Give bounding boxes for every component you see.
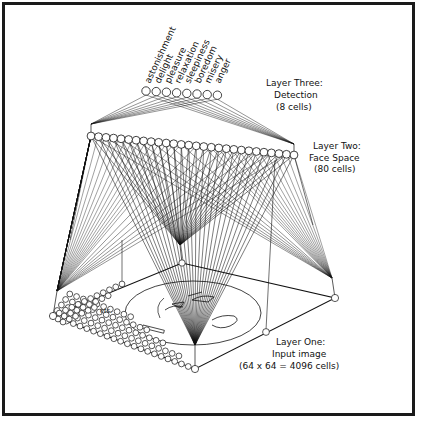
- layer-three-caption: Layer Three: Detection (8 cells): [266, 78, 323, 112]
- layer-one-count: (64 x 64 = 4096 cells): [239, 361, 339, 371]
- output-labels: astonishment delight pleasure relaxation…: [143, 25, 233, 85]
- network-diagram: astonishment delight pleasure relaxation…: [0, 0, 423, 424]
- layer-one-subtitle: Input image: [272, 349, 327, 359]
- layer-three-count: (8 cells): [276, 102, 312, 112]
- etc-label: etc.: [100, 307, 112, 315]
- left-eye-sketch: [165, 302, 184, 310]
- layer-two-caption: Layer Two: Face Space (80 cells): [309, 141, 361, 174]
- layer-two-count: (80 cells): [314, 164, 356, 174]
- layer-two-subtitle: Face Space: [309, 153, 360, 163]
- layer-three-subtitle: Detection: [274, 90, 318, 100]
- layer-two-title: Layer Two:: [313, 141, 361, 151]
- mouth-sketch: [212, 316, 237, 328]
- layer-one-title: Layer One:: [276, 337, 325, 347]
- layer-three-title: Layer Three:: [266, 78, 323, 88]
- cheek-sketch: [158, 298, 164, 318]
